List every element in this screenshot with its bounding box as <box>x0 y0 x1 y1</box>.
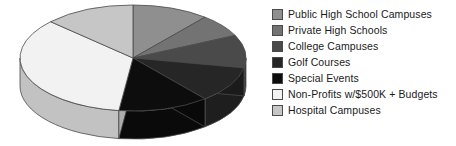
legend-swatch-icon <box>272 105 283 116</box>
legend-swatch-icon <box>272 57 283 68</box>
chart-legend: Public High School CampusesPrivate High … <box>272 6 456 118</box>
legend-item-label: Public High School Campuses <box>288 9 432 20</box>
legend-item[interactable]: Golf Courses <box>272 54 456 70</box>
legend-item-label: College Campuses <box>288 41 378 52</box>
legend-item[interactable]: Public High School Campuses <box>272 6 456 22</box>
legend-item-label: Golf Courses <box>288 57 350 68</box>
pie-chart-figure: Public High School CampusesPrivate High … <box>0 0 456 146</box>
legend-swatch-icon <box>272 73 283 84</box>
legend-swatch-icon <box>272 89 283 100</box>
legend-swatch-icon <box>272 9 283 20</box>
legend-swatch-icon <box>272 41 283 52</box>
pie-chart-svg <box>0 0 268 146</box>
legend-item-label: Private High Schools <box>288 25 387 36</box>
legend-item-label: Non-Profits w/$500K + Budgets <box>288 89 438 100</box>
legend-item[interactable]: Private High Schools <box>272 22 456 38</box>
legend-item[interactable]: Hospital Campuses <box>272 102 456 118</box>
legend-item[interactable]: College Campuses <box>272 38 456 54</box>
pie-top-faces <box>20 5 246 111</box>
legend-swatch-icon <box>272 25 283 36</box>
legend-item-label: Hospital Campuses <box>288 105 381 116</box>
legend-item-label: Special Events <box>288 73 359 84</box>
legend-item[interactable]: Non-Profits w/$500K + Budgets <box>272 86 456 102</box>
legend-item[interactable]: Special Events <box>272 70 456 86</box>
pie-chart-plot-area <box>0 0 268 146</box>
